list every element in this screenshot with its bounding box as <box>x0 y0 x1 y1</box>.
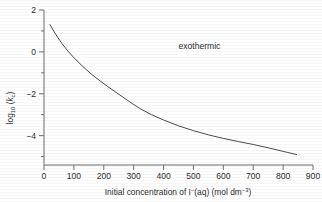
y-tick-label-0: 2 <box>31 5 36 15</box>
x-axis-title-tail: ) <box>248 187 251 197</box>
x-tick-label-4: 400 <box>156 171 171 181</box>
annotation-exothermic: exothermic <box>178 41 221 51</box>
y-tick-label-1: 0 <box>31 47 36 57</box>
x-tick-label-2: 200 <box>97 171 112 181</box>
y-axis-title-close: ) <box>5 91 15 94</box>
x-axis-title-mid: (aq) (mol dm <box>194 187 241 197</box>
y-tick-label-3: −4 <box>26 131 36 141</box>
x-tick-label-8: 800 <box>276 171 291 181</box>
x-axis-title: Initial concentration of I−(aq) (mol dm−… <box>105 187 252 197</box>
x-tick-label-0: 0 <box>42 171 47 181</box>
chart-figure: 2 0 −2 −4 0 100 200 300 400 500 600 <box>0 0 322 202</box>
x-tick-label-7: 700 <box>246 171 261 181</box>
x-tick-label-9: 900 <box>306 171 321 181</box>
x-axis-title-lead: Initial concentration of I <box>105 187 191 197</box>
x-tick-label-1: 100 <box>67 171 82 181</box>
y-tick-label-2: −2 <box>26 89 36 99</box>
x-axis-title-exponent: −3 <box>242 187 249 193</box>
x-tick-label-6: 600 <box>216 171 231 181</box>
x-tick-label-3: 300 <box>127 171 142 181</box>
chart-svg: 2 0 −2 −4 0 100 200 300 400 500 600 <box>0 0 322 202</box>
x-tick-label-5: 500 <box>186 171 201 181</box>
y-axis-title-lead: log <box>5 113 15 125</box>
